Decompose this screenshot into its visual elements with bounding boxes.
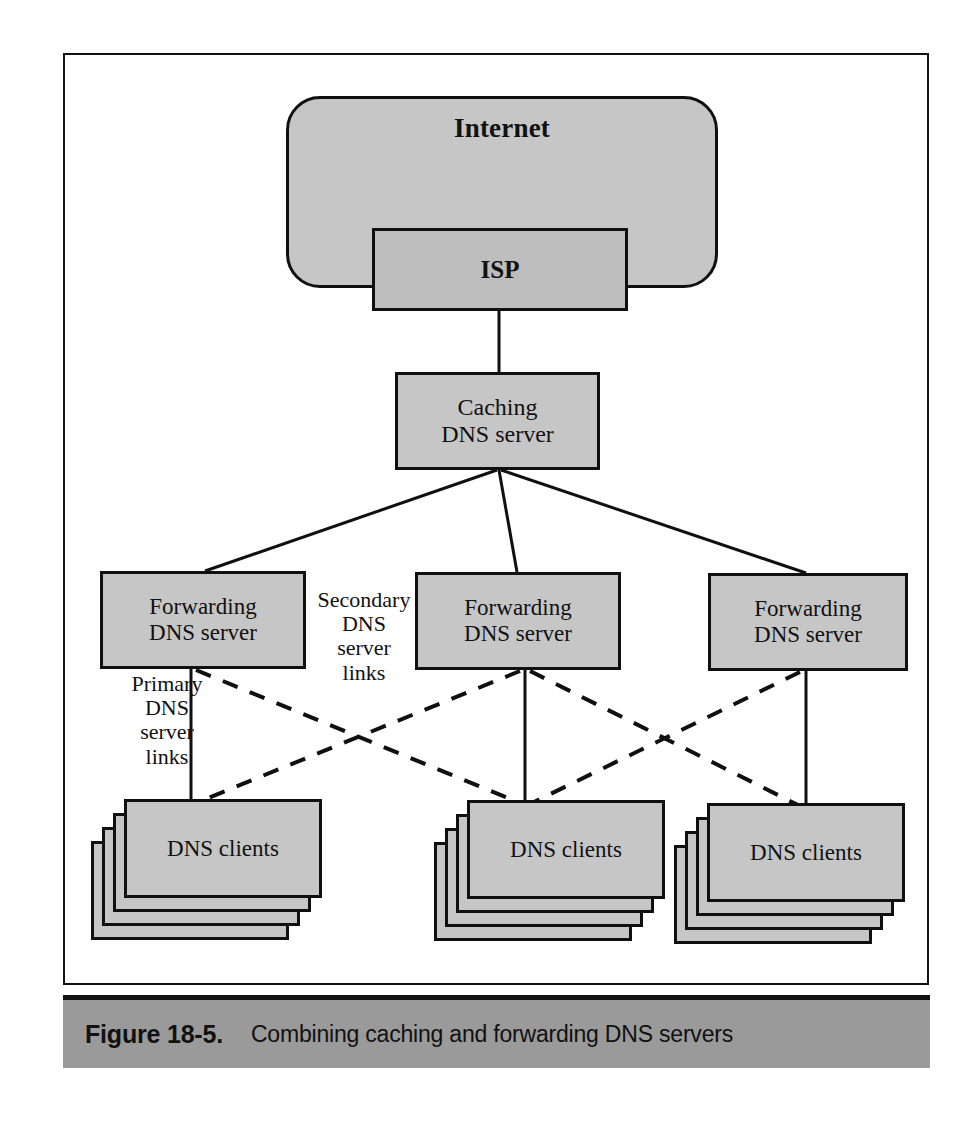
node-forwarding-dns-server-3-label: Forwarding DNS server [754, 596, 862, 648]
dns-clients-sheet-front[interactable]: DNS clients [124, 799, 322, 898]
dns-clients-sheet-front[interactable]: DNS clients [707, 803, 905, 902]
node-dns-clients-stack-1-label: DNS clients [167, 836, 279, 862]
figure-caption-text: Combining caching and forwarding DNS ser… [251, 1021, 733, 1048]
node-forwarding-dns-server-2-label: Forwarding DNS server [464, 595, 572, 647]
node-forwarding-dns-server-1-label: Forwarding DNS server [149, 594, 257, 646]
figure-caption-number: Figure 18-5. [85, 1020, 223, 1049]
label-primary-dns-server-links: Primary DNS server links [107, 672, 227, 769]
node-dns-clients-stack-2-label: DNS clients [510, 837, 622, 863]
node-isp[interactable]: ISP [372, 228, 628, 311]
node-forwarding-dns-server-3[interactable]: Forwarding DNS server [708, 573, 908, 671]
node-forwarding-dns-server-1[interactable]: Forwarding DNS server [100, 571, 306, 669]
node-internet-label: Internet [454, 113, 550, 143]
label-secondary-dns-server-links: Secondary DNS server links [310, 588, 418, 685]
dns-clients-sheet-front[interactable]: DNS clients [467, 800, 665, 899]
figure-page: Internet ISP Caching DNS server Forwardi… [0, 0, 979, 1127]
node-caching-dns-server-label: Caching DNS server [441, 394, 554, 448]
node-caching-dns-server[interactable]: Caching DNS server [395, 372, 600, 470]
node-isp-label: ISP [481, 256, 520, 284]
node-dns-clients-stack-3-label: DNS clients [750, 840, 862, 866]
node-forwarding-dns-server-2[interactable]: Forwarding DNS server [415, 572, 621, 670]
figure-caption-bar: Figure 18-5. Combining caching and forwa… [63, 995, 930, 1068]
